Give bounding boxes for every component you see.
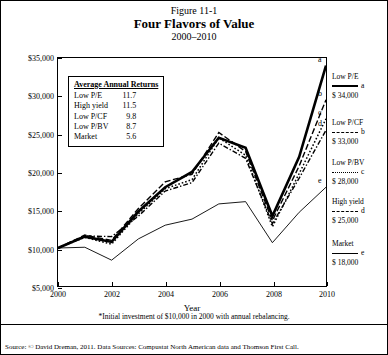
footnote: *Initial investment of $10,000 in 2000 w… <box>1 312 387 321</box>
series-endpoint-tag: a <box>318 58 322 64</box>
x-tick-label: 2010 <box>319 286 335 299</box>
figure-subtitle: 2000–2010 <box>1 31 387 43</box>
series-end-value: $ 18,000 <box>332 258 364 267</box>
y-tick-label: $30,000 <box>28 92 58 101</box>
x-tick-label: 2002 <box>104 286 120 299</box>
y-tick-label: $10,000 <box>28 245 58 254</box>
series-name: Market <box>332 239 364 248</box>
line-swatch-icon <box>332 172 358 173</box>
y-tick-label: $25,000 <box>28 130 58 139</box>
series-endpoint-tag: e <box>318 176 322 185</box>
row-value: 11.5 <box>108 101 136 111</box>
figure-number: Figure 11-1 <box>1 5 387 17</box>
line-swatch-icon <box>332 132 358 133</box>
figure-page: Figure 11-1 Four Flavors of Value 2000–2… <box>0 0 388 355</box>
series-tag: c <box>361 167 364 176</box>
divider <box>1 324 387 325</box>
table-row: Low P/BV 8.7 <box>74 122 136 132</box>
row-label: Market <box>74 132 108 142</box>
series-legend-low-pcf: Low P/CF b $ 33,000 <box>332 118 365 146</box>
series-tag: b <box>361 127 365 136</box>
series-endpoint-tag: b <box>318 89 322 98</box>
table-row: High yield 11.5 <box>74 101 136 111</box>
series-name: Low P/E <box>332 72 364 81</box>
series-end-value: $ 33,000 <box>332 137 365 146</box>
x-tick-label: 2006 <box>212 286 228 299</box>
table-row: Market 5.6 <box>74 132 136 142</box>
series-endpoint-tag: d <box>318 119 322 128</box>
table-row: Low P/E 11.7 <box>74 91 136 101</box>
series-name: High yield <box>332 197 365 206</box>
series-end-value: $ 28,000 <box>332 177 364 186</box>
x-tick-label: 2008 <box>266 286 282 299</box>
average-returns-header: Average Annual Returns <box>74 80 158 90</box>
y-tick-label: $15,000 <box>28 207 58 216</box>
series-name: Low P/BV <box>332 158 364 167</box>
series-name: Low P/CF <box>332 118 365 127</box>
figure-header: Figure 11-1 Four Flavors of Value 2000–2… <box>1 5 387 43</box>
series-tag: d <box>361 206 365 215</box>
y-tick-label: $20,000 <box>28 169 58 178</box>
row-label: Low P/CF <box>74 112 108 122</box>
series-end-value: $ 25,000 <box>332 216 365 225</box>
row-value: 5.6 <box>108 132 136 142</box>
row-value: 9.8 <box>108 112 136 122</box>
series-legend-market: Market e $ 18,000 <box>332 239 364 267</box>
row-value: 11.7 <box>108 91 136 101</box>
series-legend-low-pe: Low P/E a $ 34,000 <box>332 72 364 100</box>
series-legend-low-pbv: Low P/BV c $ 28,000 <box>332 158 364 186</box>
series-legend-high-yield: High yield d $ 25,000 <box>332 197 365 225</box>
series-tag: e <box>361 248 364 257</box>
y-tick-label: $35,000 <box>28 54 58 63</box>
series-endpoint-tag: c <box>318 108 322 117</box>
series-end-value: $ 34,000 <box>332 91 364 100</box>
row-label: Low P/BV <box>74 122 108 132</box>
source-note: Source: © David Dreman, 2011. Data Sourc… <box>5 343 299 351</box>
line-swatch-icon <box>332 253 358 254</box>
series-swatch-row: e <box>332 248 364 257</box>
series-swatch-row: b <box>332 127 365 136</box>
series-line-e <box>58 187 326 260</box>
row-label: Low P/E <box>74 91 108 101</box>
table-row: Low P/CF 9.8 <box>74 112 136 122</box>
row-label: High yield <box>74 101 108 111</box>
average-returns-table: Low P/E 11.7 High yield 11.5 Low P/CF 9.… <box>74 91 136 142</box>
figure-title: Four Flavors of Value <box>1 17 387 32</box>
average-returns-legend: Average Annual Returns Low P/E 11.7 High… <box>68 76 164 147</box>
row-value: 8.7 <box>108 122 136 132</box>
line-swatch-icon <box>332 211 358 212</box>
series-swatch-row: d <box>332 206 365 215</box>
series-swatch-row: a <box>332 81 364 90</box>
x-tick-label: 2000 <box>50 286 66 299</box>
x-tick-label: 2004 <box>158 286 174 299</box>
line-swatch-icon <box>332 85 358 87</box>
series-swatch-row: c <box>332 167 364 176</box>
series-tag: a <box>361 81 364 90</box>
